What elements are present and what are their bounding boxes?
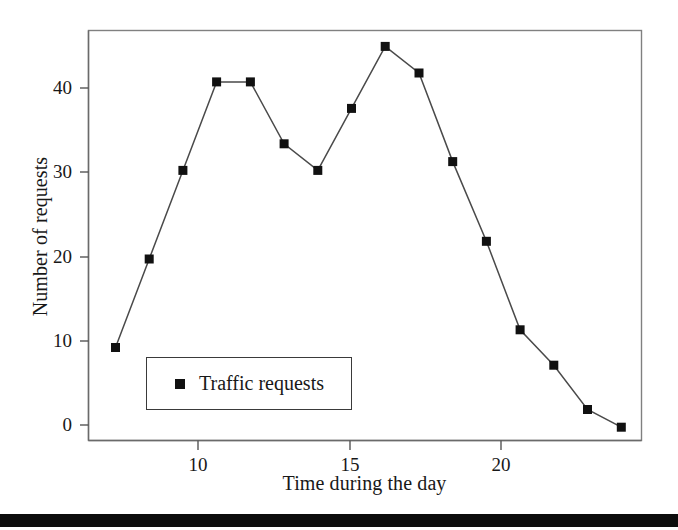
data-point-16 — [381, 42, 390, 51]
data-point-17 — [415, 69, 424, 78]
data-point-23 — [617, 423, 626, 432]
data-point-22 — [583, 405, 592, 414]
data-point-15 — [347, 104, 356, 113]
data-point-14 — [313, 166, 322, 175]
chart-figure: 40 30 20 10 0 10 15 20 Number of request… — [0, 0, 678, 530]
x-axis-title: Time during the day — [88, 472, 641, 495]
data-point-18 — [448, 157, 457, 166]
data-point-11 — [212, 77, 221, 86]
y-tick-label-40: 40 — [32, 77, 72, 99]
y-axis — [80, 31, 89, 441]
data-point-13 — [280, 139, 289, 148]
data-point-9 — [145, 255, 154, 264]
chart-legend: Traffic requests — [146, 357, 352, 410]
y-axis-title: Number of requests — [29, 127, 52, 347]
data-point-21 — [549, 361, 558, 370]
data-point-12 — [246, 77, 255, 86]
data-point-20 — [516, 325, 525, 334]
x-axis — [89, 441, 642, 451]
legend-marker-square-icon — [175, 379, 185, 389]
page-scan-bar — [0, 514, 678, 527]
legend-entry-label: Traffic requests — [199, 372, 324, 395]
y-tick-label-0: 0 — [32, 414, 72, 436]
data-point-10 — [178, 166, 187, 175]
data-point-19 — [482, 237, 491, 246]
data-point-8 — [111, 343, 120, 352]
line-chart-plot — [0, 0, 678, 530]
